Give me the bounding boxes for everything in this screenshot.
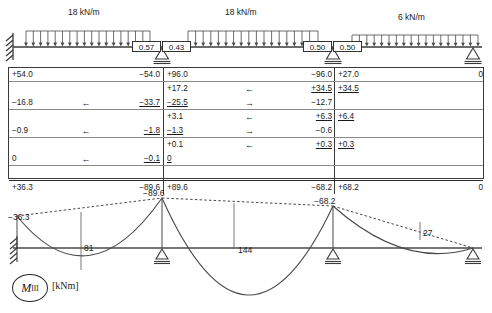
table-cell-group-span-3: +0.3 (334, 138, 486, 152)
table-cell: 0 (167, 153, 172, 165)
moment-distribution-table: +54.0 −54.0 +96.0 −96.0 +27.0 0 +17.2 ← … (8, 67, 484, 179)
carry-over-arrow-icon: ← (245, 111, 254, 123)
moment-label-support-b: −89.6 (143, 188, 165, 198)
table-cell: −96.0 (311, 69, 332, 81)
table-cell-group-span-3 (334, 124, 486, 137)
table-row: +17.2 ← +34.5 +34.5 (9, 82, 483, 96)
table-row: 0 ← −0.1 0 (9, 152, 483, 166)
table-cell-group-span-1 (9, 110, 163, 124)
table-cell: +3.1 (167, 111, 183, 123)
table-cell: +27.0 (338, 69, 359, 81)
table-row: +3.1 ← +6.3 +6.4 (9, 110, 483, 124)
table-cell-group-span-1: 0 ← −0.1 (9, 152, 163, 165)
table-cell: −12.7 (311, 97, 332, 109)
table-cell-group-span-3 (334, 96, 486, 109)
table-cell-group-span-3: +6.4 (334, 110, 486, 124)
table-cell-group-span-2: +17.2 ← +34.5 (163, 82, 335, 96)
moment-label-span-3-max: 27 (423, 228, 432, 238)
distribution-factor-c-right: 0.50 (333, 41, 362, 52)
load-label-span-3: 6 kN/m (398, 13, 425, 22)
table-cell: +34.5 (338, 83, 359, 95)
table-cell-group-span-1: +54.0 −54.0 (9, 68, 163, 81)
table-cell-group-span-1 (9, 138, 163, 152)
table-cell-group-span-3: +34.5 (334, 82, 486, 96)
moment-diagram-unit-label: [kNm] (52, 280, 79, 291)
table-cell: −16.8 (12, 97, 33, 109)
caption-symbol-letter: M (21, 281, 31, 296)
moment-label-support-a: −36.3 (8, 212, 30, 222)
table-cell: 0 (12, 153, 17, 165)
table-cell: +0.3 (316, 139, 332, 151)
table-row: +0.1 ← +0.3 +0.3 (9, 138, 483, 152)
table-cell: −54.0 (139, 69, 160, 81)
table-cell-group-span-2: −1.3 → −0.6 (163, 124, 335, 137)
table-cell: +17.2 (167, 83, 188, 95)
table-cell: −1.8 (144, 125, 160, 137)
moment-label-span-1-max: 81 (84, 243, 93, 253)
moment-label-span-2-max: 144 (238, 245, 252, 255)
table-row: +54.0 −54.0 +96.0 −96.0 +27.0 0 (9, 68, 483, 82)
table-cell: +96.0 (167, 69, 188, 81)
table-cell: −1.3 (167, 125, 183, 137)
table-cell: +6.4 (338, 111, 354, 123)
moment-label-support-c: −68.2 (314, 196, 336, 206)
table-cell-group-span-3 (334, 152, 486, 165)
table-cell: −33.7 (139, 97, 160, 109)
table-cell: 0 (478, 69, 483, 81)
table-cell: −0.6 (316, 125, 332, 137)
carry-over-arrow-icon: → (245, 125, 254, 137)
table-cell: +0.1 (167, 139, 183, 151)
carry-over-arrow-icon: ← (82, 97, 91, 109)
moment-diagram-caption-symbol: MIII (12, 274, 48, 302)
table-cell-group-span-2: +0.1 ← +0.3 (163, 138, 335, 152)
distribution-factor-b-right: 0.43 (162, 41, 191, 52)
table-cell: −25.5 (167, 97, 188, 109)
carry-over-arrow-icon: → (245, 97, 254, 109)
table-cell: +6.3 (316, 111, 332, 123)
carry-over-arrow-icon: ← (82, 125, 91, 137)
carry-over-arrow-icon: ← (245, 83, 254, 95)
table-cell: −0.9 (12, 125, 28, 137)
table-cell-group-span-3: +27.0 0 (334, 68, 486, 81)
table-cell: +34.5 (311, 83, 332, 95)
table-cell: +54.0 (12, 69, 33, 81)
table-cell-group-span-2: +96.0 −96.0 (163, 68, 335, 81)
table-cell-group-span-2: −25.5 → −12.7 (163, 96, 335, 109)
table-cell: +0.3 (338, 139, 354, 151)
carry-over-arrow-icon: ← (245, 139, 254, 151)
figure-root: 18 kN/m 18 kN/m 6 kN/m 0.57 0.43 0.50 0.… (0, 0, 492, 313)
table-row: −0.9 ← −1.8 −1.3 → −0.6 (9, 124, 483, 138)
load-label-span-2: 18 kN/m (225, 8, 257, 17)
table-cell-group-span-1 (9, 82, 163, 96)
carry-over-arrow-icon: ← (82, 153, 91, 165)
table-cell-group-span-2: 0 (163, 152, 335, 165)
distribution-factor-c-left: 0.50 (303, 41, 332, 52)
table-cell-group-span-2: +3.1 ← +6.3 (163, 110, 335, 124)
table-cell-group-span-1: −16.8 ← −33.7 (9, 96, 163, 109)
table-row: −16.8 ← −33.7 −25.5 → −12.7 (9, 96, 483, 110)
table-cell-group-span-1: −0.9 ← −1.8 (9, 124, 163, 137)
load-label-span-1: 18 kN/m (68, 8, 100, 17)
table-cell: −0.1 (144, 153, 160, 165)
caption-symbol-subscript: III (31, 284, 39, 293)
distribution-factor-b-left: 0.57 (132, 41, 161, 52)
